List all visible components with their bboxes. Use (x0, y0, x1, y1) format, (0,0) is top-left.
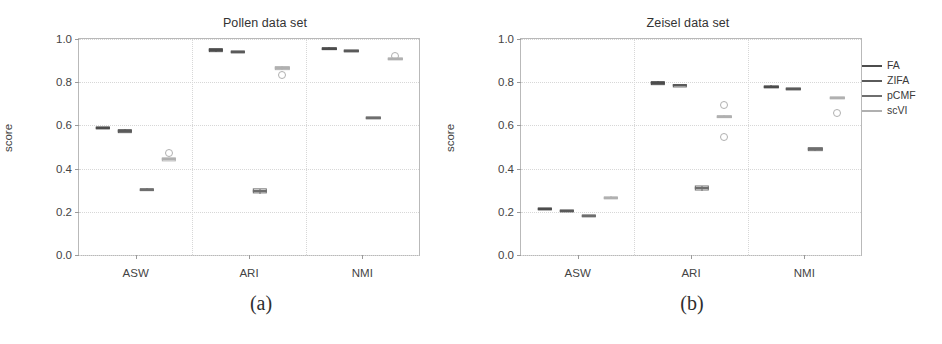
caption-a: (a) (0, 292, 496, 315)
y-tick-label: 0.2 (56, 206, 72, 218)
box-median-line (117, 130, 131, 132)
grid-line-horizontal (79, 82, 419, 83)
box-median-line (695, 187, 709, 189)
panel-b: Zeisel data set score 0.00.20.40.60.81.0… (470, 0, 942, 344)
x-tick-label-nmi: NMI (352, 267, 373, 279)
box-median-line (162, 158, 176, 160)
box-median-line (786, 88, 800, 90)
x-tick-label-ari: ARI (681, 267, 700, 279)
legend: FAZIFApCMFscVI (862, 58, 942, 118)
box-median-line (808, 148, 822, 150)
y-tick-mark (517, 125, 521, 126)
x-tick-mark (804, 255, 805, 259)
y-tick-mark (75, 39, 79, 40)
box-median-line (582, 215, 596, 217)
box-median-line (559, 210, 573, 212)
box-outlier-point (391, 52, 399, 60)
x-tick-label-asw: ASW (565, 267, 591, 279)
y-tick-mark (517, 212, 521, 213)
legend-label: pCMF (887, 90, 916, 101)
box-outlier-point (833, 109, 841, 117)
box-outlier-point (278, 71, 286, 79)
y-tick-label: 0.2 (498, 206, 514, 218)
legend-swatch-fa (862, 65, 882, 67)
box-median-line (231, 51, 245, 53)
panel-a: Pollen data set score 0.00.20.40.60.81.0… (0, 0, 470, 344)
caption-b: (b) (456, 292, 928, 315)
legend-label: ZIFA (887, 75, 909, 86)
legend-label: scVI (887, 105, 907, 116)
box-outlier-point (720, 133, 728, 141)
box-median-line (830, 97, 844, 99)
y-tick-label: 0.6 (498, 119, 514, 131)
y-tick-label: 0.4 (498, 163, 514, 175)
grid-line-horizontal (79, 125, 419, 126)
legend-item-fa[interactable]: FA (862, 58, 942, 73)
grid-line-horizontal (79, 169, 419, 170)
y-tick-label: 0.8 (56, 76, 72, 88)
grid-line-vertical (748, 39, 749, 255)
box-median-line (717, 116, 731, 118)
y-tick-label: 0.0 (498, 249, 514, 261)
grid-line-horizontal (521, 39, 861, 40)
plot-area-b: 0.00.20.40.60.81.0ASWARINMI (520, 38, 862, 256)
plot-area-a: 0.00.20.40.60.81.0ASWARINMI (78, 38, 420, 256)
y-tick-mark (75, 169, 79, 170)
box-median-line (344, 50, 358, 52)
box-median-line (95, 127, 109, 129)
box-median-line (651, 82, 665, 84)
y-tick-mark (517, 255, 521, 256)
x-tick-label-ari: ARI (239, 267, 258, 279)
legend-item-zifa[interactable]: ZIFA (862, 73, 942, 88)
legend-item-scvi[interactable]: scVI (862, 103, 942, 118)
y-tick-label: 0.4 (56, 163, 72, 175)
y-tick-label: 0.6 (56, 119, 72, 131)
grid-line-horizontal (79, 39, 419, 40)
y-tick-mark (75, 82, 79, 83)
box-median-line (764, 86, 778, 88)
box-outlier-point (720, 101, 728, 109)
box-median-line (209, 49, 223, 51)
y-axis-label-b: score (444, 124, 456, 152)
y-tick-label: 1.0 (498, 33, 514, 45)
x-tick-mark (249, 255, 250, 259)
box-median-line (275, 67, 289, 69)
box-median-line (366, 117, 380, 119)
y-tick-mark (517, 169, 521, 170)
legend-item-pcmf[interactable]: pCMF (862, 88, 942, 103)
legend-swatch-scvi (862, 110, 882, 112)
box-median-line (253, 190, 267, 192)
grid-line-horizontal (521, 169, 861, 170)
y-tick-label: 0.8 (498, 76, 514, 88)
chart-title-a: Pollen data set (0, 16, 500, 30)
x-tick-label-nmi: NMI (794, 267, 815, 279)
grid-line-vertical (306, 39, 307, 255)
grid-line-horizontal (521, 82, 861, 83)
chart-title-b: Zeisel data set (452, 16, 924, 30)
box-median-line (537, 208, 551, 210)
box-median-line (604, 197, 618, 199)
x-tick-mark (362, 255, 363, 259)
y-tick-mark (75, 212, 79, 213)
legend-swatch-zifa (862, 80, 882, 82)
figure-two-panel-boxplots: Pollen data set score 0.00.20.40.60.81.0… (0, 0, 942, 344)
y-tick-label: 1.0 (56, 33, 72, 45)
y-tick-label: 0.0 (56, 249, 72, 261)
grid-line-vertical (634, 39, 635, 255)
box-median-line (322, 48, 336, 50)
box-median-line (673, 84, 687, 86)
x-tick-label-asw: ASW (123, 267, 149, 279)
legend-label: FA (887, 60, 900, 71)
legend-swatch-pcmf (862, 95, 882, 97)
y-tick-mark (75, 125, 79, 126)
box-median-line (140, 189, 154, 191)
grid-line-horizontal (521, 125, 861, 126)
grid-line-vertical (192, 39, 193, 255)
box-outlier-point (165, 149, 173, 157)
x-tick-mark (578, 255, 579, 259)
y-tick-mark (75, 255, 79, 256)
y-axis-label-a: score (2, 124, 14, 152)
y-tick-mark (517, 82, 521, 83)
x-tick-mark (136, 255, 137, 259)
x-tick-mark (691, 255, 692, 259)
